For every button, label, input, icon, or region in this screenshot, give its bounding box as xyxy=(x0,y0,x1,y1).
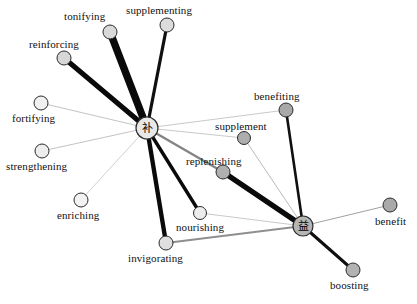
graph-edge-yi-benefiting xyxy=(286,110,303,226)
graph-node-label-supplement: supplement xyxy=(215,121,267,132)
graph-node-label-invigorating: invigorating xyxy=(128,253,183,264)
node-layer: 补益 xyxy=(34,18,397,277)
graph-node-invigorating[interactable] xyxy=(159,236,173,250)
graph-node-supplementing[interactable] xyxy=(160,18,174,32)
graph-node-benefit[interactable] xyxy=(383,198,397,212)
edge-layer xyxy=(41,25,390,270)
graph-node-label-supplementing: supplementing xyxy=(126,5,192,16)
graph-node-label-reinforcing: reinforcing xyxy=(29,39,79,50)
graph-node-supplement[interactable] xyxy=(238,132,251,145)
graph-node-fortifying[interactable] xyxy=(34,96,48,110)
network-graph-canvas: 补益 tonifyingsupplementingreinforcingfort… xyxy=(0,0,417,304)
graph-edge-yi-supplement xyxy=(244,138,303,226)
graph-edge-bu-enriching xyxy=(81,128,147,200)
graph-node-label-nourishing: nourishing xyxy=(176,222,224,233)
graph-node-tonifying[interactable] xyxy=(103,25,117,39)
graph-node-benefiting[interactable] xyxy=(279,103,293,117)
graph-node-label-benefiting: benefiting xyxy=(254,91,300,102)
graph-node-label-strengthening: strengthening xyxy=(6,161,67,172)
graph-node-label-benefit: benefit xyxy=(375,216,406,227)
graph-node-label-replenishing: replenishing xyxy=(186,156,242,167)
graph-node-label-tonifying: tonifying xyxy=(64,11,105,22)
graph-node-replenishing[interactable] xyxy=(216,165,230,179)
graph-node-strengthening[interactable] xyxy=(35,144,49,158)
graph-node-reinforcing[interactable] xyxy=(57,51,71,65)
graph-edge-yi-replenishing xyxy=(223,172,303,226)
graph-node-label-enriching: enriching xyxy=(57,210,99,221)
graph-node-nourishing[interactable] xyxy=(194,207,207,220)
graph-edge-bu-strengthening xyxy=(42,128,147,151)
graph-hub-glyph-bu: 补 xyxy=(142,122,153,135)
graph-edge-bu-supplementing xyxy=(147,25,167,128)
graph-node-label-boosting: boosting xyxy=(330,280,369,291)
graph-node-label-fortifying: fortifying xyxy=(12,113,55,124)
graph-node-enriching[interactable] xyxy=(74,193,88,207)
graph-node-boosting[interactable] xyxy=(346,263,360,277)
graph-hub-glyph-yi: 益 xyxy=(298,219,309,233)
